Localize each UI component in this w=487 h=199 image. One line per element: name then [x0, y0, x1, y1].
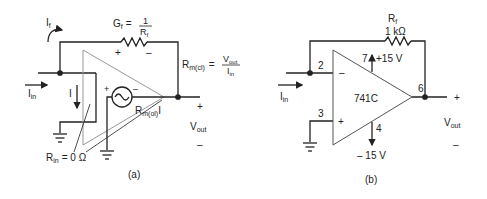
source-ground-wire — [107, 97, 112, 150]
svg-text:+: + — [115, 47, 121, 58]
resistor-rf — [385, 37, 411, 45]
ground-icon — [53, 134, 67, 142]
ground-icon — [100, 151, 114, 159]
svg-text:Iin: Iin — [227, 66, 234, 77]
svg-text:(a): (a) — [128, 169, 140, 180]
svg-text:7: 7 — [362, 53, 368, 64]
svg-text:+: + — [197, 101, 203, 112]
ground-icon — [303, 143, 317, 151]
svg-text:I: I — [69, 88, 72, 99]
svg-text:–: – — [339, 67, 345, 78]
rin-pointer — [74, 104, 90, 152]
svg-text:Rin= 0 Ω: Rin= 0 Ω — [46, 152, 87, 164]
svg-text:Rf: Rf — [140, 27, 149, 38]
svg-text:–: – — [146, 47, 152, 58]
svg-text:Vout: Vout — [444, 117, 460, 129]
svg-text:741C: 741C — [354, 93, 378, 104]
circuit-diagrams: If Gf= 1 Rf + – Rm(cl)= Vout Iin Iin I +… — [0, 0, 487, 199]
node-dot-output-b — [423, 95, 427, 99]
noninv-ground-wire — [310, 121, 333, 142]
svg-text:4: 4 — [376, 123, 382, 134]
svg-text:Iin: Iin — [280, 91, 288, 103]
node-dot-output-a — [176, 95, 180, 99]
svg-text:–: – — [197, 139, 203, 150]
inner-loop-wire — [60, 73, 96, 133]
svg-text:1: 1 — [143, 16, 148, 26]
svg-text:+15 V: +15 V — [376, 53, 403, 64]
svg-text:+: + — [338, 116, 344, 127]
svg-text:6: 6 — [418, 83, 424, 94]
svg-text:Iin: Iin — [28, 88, 36, 100]
feedback-wire-a — [60, 42, 121, 73]
svg-text:Rm(cl)=: Rm(cl)= — [182, 59, 215, 72]
svg-text:1 kΩ: 1 kΩ — [385, 26, 406, 37]
rmol-pointer — [86, 100, 162, 152]
resistor-gf — [121, 38, 147, 46]
svg-text:3: 3 — [318, 108, 324, 119]
diagram-a — [25, 30, 200, 160]
labels-b: Rf 1 kΩ 2 – 7 +15 V 6 741C Iin 3 + 4 – 1… — [280, 13, 460, 185]
svg-text:– 15 V: – 15 V — [357, 150, 386, 161]
svg-text:Gf=: Gf= — [113, 18, 132, 30]
svg-text:Vout: Vout — [223, 54, 238, 65]
svg-text:+: + — [454, 92, 460, 103]
svg-text:If: If — [46, 17, 51, 29]
svg-text:+: + — [104, 84, 109, 94]
svg-text:–: – — [453, 139, 459, 150]
current-arrow-if — [48, 30, 62, 43]
feedback-wire-a-right — [147, 42, 178, 97]
svg-text:Rf: Rf — [388, 13, 397, 25]
svg-text:Vout: Vout — [190, 121, 206, 133]
svg-text:–: – — [133, 84, 138, 94]
node-dot-input-a — [58, 71, 62, 75]
node-dot-input-b — [308, 71, 312, 75]
svg-text:2: 2 — [318, 60, 324, 71]
svg-text:(b): (b) — [365, 174, 377, 185]
